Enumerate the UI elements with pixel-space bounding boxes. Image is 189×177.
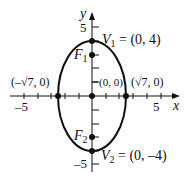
vertex-v1-dot: [89, 38, 95, 44]
right-covertex-label: (√7, 0): [131, 75, 164, 89]
ellipse-diagram: y x 5 –5 –5 5 V1 = (0, 4) F1 F2 V2 = (0,…: [0, 0, 189, 177]
left-covertex-label: (–√7, 0): [11, 75, 50, 89]
focus-f2-label: F2: [73, 128, 88, 145]
vertex-v2-label: V2 = (0, –4): [101, 148, 167, 165]
focus-f1-dot: [89, 52, 95, 58]
x-tick-neg5: –5: [14, 99, 28, 114]
y-tick-5: 5: [80, 20, 87, 35]
y-axis-arrow-icon: [89, 12, 95, 20]
center-label: (0, 0): [99, 76, 123, 89]
focus-f2-dot: [89, 134, 95, 140]
x-tick-5: 5: [153, 99, 160, 114]
y-tick-neg5: –5: [73, 156, 87, 171]
vertex-v1-label: V1 = (0, 4): [102, 32, 161, 49]
vertex-v2-dot: [89, 148, 95, 154]
center-dot: [89, 93, 95, 99]
right-covertex-dot: [123, 93, 129, 99]
focus-f1-label: F1: [73, 47, 88, 64]
left-covertex-dot: [55, 93, 61, 99]
x-axis-label: x: [172, 98, 180, 113]
y-axis-label: y: [78, 6, 87, 21]
